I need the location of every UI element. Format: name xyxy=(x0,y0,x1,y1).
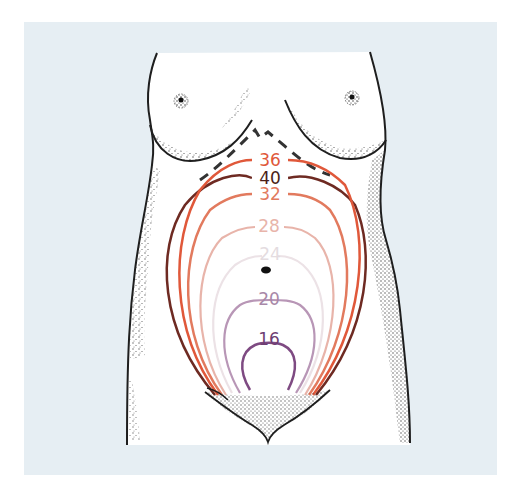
left-nipple-center xyxy=(179,98,184,103)
right-nipple-center xyxy=(350,95,355,100)
label-week-20: 20 xyxy=(258,289,280,309)
label-week-28: 28 xyxy=(258,216,280,236)
label-week-36: 36 xyxy=(259,150,281,170)
label-week-32: 32 xyxy=(259,184,281,204)
umbilicus-icon xyxy=(261,267,271,274)
label-week-16: 16 xyxy=(258,329,280,349)
label-week-24: 24 xyxy=(259,244,281,264)
fundal-height-diagram: 36 40 32 28 24 20 16 xyxy=(0,0,510,494)
